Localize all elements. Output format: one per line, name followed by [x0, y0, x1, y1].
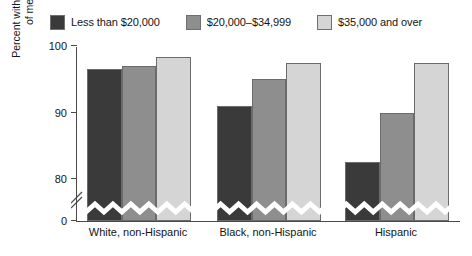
bars-layer: [77, 47, 460, 221]
x-axis-label-3: Hispanic: [375, 226, 417, 238]
legend-label-35000-and-over: $35,000 and over: [338, 16, 422, 28]
bar[interactable]: [217, 106, 252, 221]
chart-legend: Less than $20,000 $20,000–$34,999 $35,00…: [0, 10, 472, 34]
bar[interactable]: [414, 63, 449, 221]
legend-item-less-than-20000[interactable]: Less than $20,000: [50, 15, 160, 30]
bar[interactable]: [87, 69, 122, 221]
y-axis-title: Percent with a regular source of medical…: [8, 0, 38, 77]
bar[interactable]: [286, 63, 321, 221]
bar[interactable]: [156, 57, 191, 221]
legend-swatch-less-than-20000: [50, 15, 65, 30]
y-axis-tick-label-0: 0: [61, 215, 67, 227]
y-axis-tick-label-100: 100: [49, 40, 67, 52]
legend-item-35000-and-over[interactable]: $35,000 and over: [317, 15, 422, 30]
bar-group-1: [87, 47, 191, 221]
bar[interactable]: [252, 79, 287, 221]
x-axis-label-1: White, non-Hispanic: [89, 226, 187, 238]
legend-label-20000-34999: $20,000–$34,999: [207, 16, 291, 28]
y-axis-tick-label-90: 90: [55, 107, 67, 119]
bar[interactable]: [345, 162, 380, 221]
y-axis-title-line-1: Percent with a regular source: [10, 0, 23, 58]
y-axis-title-line-2: of medical care: [23, 0, 36, 58]
legend-item-20000-34999[interactable]: $20,000–$34,999: [186, 15, 291, 30]
x-axis-labels: White, non-HispanicBlack, non-HispanicHi…: [76, 226, 460, 246]
y-axis-tick-label-80: 80: [55, 173, 67, 185]
bar-group-3: [345, 47, 449, 221]
y-axis-tick-100: 100: [71, 45, 77, 46]
chart-figure: Less than $20,000 $20,000–$34,999 $35,00…: [0, 0, 472, 256]
legend-label-less-than-20000: Less than $20,000: [71, 16, 160, 28]
plot-area: 10090800: [76, 47, 460, 222]
bar[interactable]: [122, 66, 157, 221]
bar-group-2: [217, 47, 321, 221]
legend-swatch-20000-34999: [186, 15, 201, 30]
bar[interactable]: [380, 113, 415, 221]
legend-swatch-35000-and-over: [317, 15, 332, 30]
x-axis-label-2: Black, non-Hispanic: [219, 226, 316, 238]
